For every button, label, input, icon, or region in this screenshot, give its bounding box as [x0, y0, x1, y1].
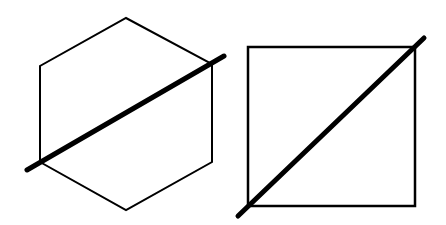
hexagon-bisector-line [27, 56, 224, 170]
diagram-canvas [0, 0, 446, 225]
square-diagonal-line [238, 38, 424, 216]
